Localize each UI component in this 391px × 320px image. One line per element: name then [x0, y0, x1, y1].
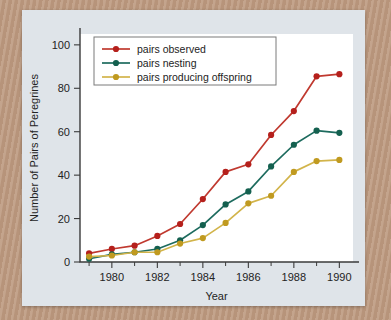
data-point [336, 130, 342, 136]
data-point [132, 249, 138, 255]
data-point [245, 200, 251, 206]
data-point [336, 157, 342, 163]
data-point [245, 161, 251, 167]
x-tick-label: 1986 [236, 271, 260, 283]
y-tick-label: 60 [58, 126, 70, 138]
chart-svg: 020406080100198019821984198619881990Year… [22, 10, 365, 306]
x-tick-label: 1984 [191, 271, 215, 283]
legend-label: pairs observed [137, 43, 206, 55]
data-point [109, 252, 115, 258]
legend-swatch-marker [113, 60, 119, 66]
data-point [200, 196, 206, 202]
x-tick-label: 1988 [282, 271, 306, 283]
data-point [223, 220, 229, 226]
data-point [177, 221, 183, 227]
data-point [291, 108, 297, 114]
y-axis-title: Number of Pairs of Peregrines [28, 74, 40, 222]
data-point [314, 158, 320, 164]
legend-swatch-marker [113, 74, 119, 80]
data-point [154, 249, 160, 255]
y-tick-label: 80 [58, 82, 70, 94]
data-point [200, 222, 206, 228]
x-tick-label: 1990 [327, 271, 351, 283]
data-point [268, 193, 274, 199]
y-tick-label: 0 [64, 256, 70, 268]
legend-label: pairs producing offspring [137, 71, 252, 83]
data-point [154, 233, 160, 239]
data-point [86, 253, 92, 259]
data-point [200, 235, 206, 241]
x-axis-title: Year [205, 290, 228, 302]
data-point [314, 73, 320, 79]
y-tick-label: 20 [58, 213, 70, 225]
data-point [291, 169, 297, 175]
data-point [223, 201, 229, 207]
data-point [268, 132, 274, 138]
data-point [177, 240, 183, 246]
x-tick-label: 1980 [100, 271, 124, 283]
data-point [336, 71, 342, 77]
data-point [268, 163, 274, 169]
legend-swatch-marker [113, 46, 119, 52]
y-tick-label: 100 [52, 39, 70, 51]
x-tick-label: 1982 [145, 271, 169, 283]
legend-label: pairs nesting [137, 57, 197, 69]
data-point [109, 246, 115, 252]
data-point [245, 188, 251, 194]
data-point [314, 128, 320, 134]
data-point [223, 169, 229, 175]
data-point [291, 142, 297, 148]
data-point [132, 243, 138, 249]
peregrine-population-line-chart: 020406080100198019821984198619881990Year… [22, 10, 365, 306]
y-tick-label: 40 [58, 169, 70, 181]
